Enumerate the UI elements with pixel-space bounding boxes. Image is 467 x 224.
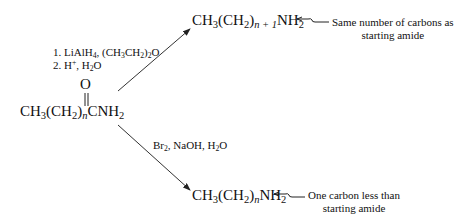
upper-product-note: Same number of carbons as starting amide bbox=[332, 16, 454, 42]
lower-product-formula: CH3(CH2)nNH2 bbox=[192, 187, 286, 204]
condition-step-1: 1. LiAlH4, (CH3CH2)2O bbox=[53, 46, 159, 59]
reactant-formula: CH3(CH2)nCNH2 bbox=[20, 103, 124, 120]
reaction-diagram: O CH3(CH2)nCNH2 1. LiAlH4, (CH3CH2)2O 2.… bbox=[0, 0, 467, 224]
lower-reaction-arrow bbox=[118, 125, 190, 190]
upper-conditions: 1. LiAlH4, (CH3CH2)2O 2. H+, H2O bbox=[53, 46, 159, 72]
upper-product-formula: CH3(CH2)n + 1NH2 bbox=[192, 12, 304, 29]
lower-conditions: Br2, NaOH, H2O bbox=[153, 139, 227, 152]
condition-step-2: 2. H+, H2O bbox=[53, 59, 159, 72]
carbonyl-oxygen: O bbox=[80, 76, 91, 93]
lower-product-note: One carbon less than starting amide bbox=[308, 189, 400, 215]
